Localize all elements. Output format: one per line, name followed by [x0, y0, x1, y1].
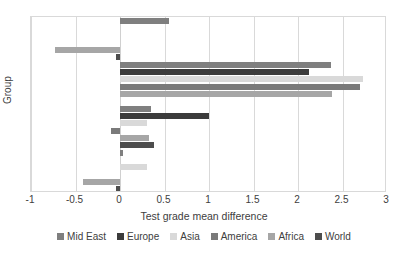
bar-mid-east	[120, 62, 331, 68]
bar-world	[116, 186, 120, 191]
x-axis-tick-labels: -1-0.500.511.522.53	[30, 194, 386, 210]
bar-asia	[120, 76, 363, 82]
x-tick-label: 2.5	[335, 194, 349, 205]
legend-swatch-icon	[211, 233, 218, 240]
legend-label: Mid East	[67, 231, 106, 242]
x-tick-label: 1.5	[246, 194, 260, 205]
legend-swatch-icon	[268, 233, 275, 240]
bar-america	[111, 128, 120, 134]
legend-swatch-icon	[57, 233, 64, 240]
bar-africa	[55, 47, 120, 53]
legend-swatch-icon	[170, 233, 177, 240]
bar-group	[31, 17, 385, 61]
bar-group	[31, 105, 385, 149]
legend-swatch-icon	[117, 233, 124, 240]
legend-label: Africa	[278, 231, 304, 242]
bar-mid-east	[120, 150, 123, 156]
x-tick-label: -1	[26, 194, 35, 205]
bar-europe	[120, 69, 309, 75]
legend-item-mid-east[interactable]: Mid East	[57, 231, 106, 242]
legend-label: World	[325, 231, 351, 242]
x-tick-label: 3	[383, 194, 389, 205]
x-tick-label: -0.5	[66, 194, 83, 205]
legend-item-asia[interactable]: Asia	[170, 231, 199, 242]
bar-europe	[120, 113, 209, 119]
legend-item-world[interactable]: World	[315, 231, 351, 242]
bar-asia	[120, 164, 147, 170]
bar-mid-east	[120, 18, 169, 24]
plot-frame	[30, 16, 386, 192]
legend-item-europe[interactable]: Europe	[117, 231, 159, 242]
x-tick-label: 2	[294, 194, 300, 205]
bar-africa	[120, 91, 332, 97]
legend-label: Europe	[127, 231, 159, 242]
legend-label: Asia	[180, 231, 199, 242]
legend-item-africa[interactable]: Africa	[268, 231, 304, 242]
bar-chart: Group G1(2018-2017)G2(2019-2018)G3(2020-…	[0, 0, 408, 260]
legend-swatch-icon	[315, 233, 322, 240]
bar-group	[31, 149, 385, 191]
bar-america	[120, 84, 360, 90]
x-tick-label: 0.5	[157, 194, 171, 205]
bar-mid-east	[120, 106, 151, 112]
legend: Mid EastEuropeAsiaAmericaAfricaWorld	[0, 231, 408, 242]
plot-area	[31, 17, 385, 191]
bar-world	[116, 54, 120, 60]
x-tick-label: 0	[116, 194, 122, 205]
legend-item-america[interactable]: America	[211, 231, 258, 242]
bar-asia	[120, 120, 147, 126]
bar-world	[120, 142, 154, 148]
bar-africa	[120, 135, 149, 141]
bar-group	[31, 61, 385, 105]
x-axis-title: Test grade mean difference	[0, 210, 408, 222]
bar-africa	[83, 179, 120, 185]
legend-label: America	[221, 231, 258, 242]
x-tick-label: 1	[205, 194, 211, 205]
